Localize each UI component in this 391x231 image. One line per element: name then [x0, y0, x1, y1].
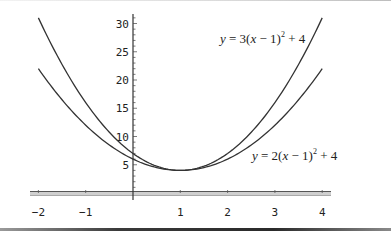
y-tick-label: 5 — [122, 159, 129, 172]
y-tick-label: 30 — [116, 18, 129, 31]
x-axis-tick-labels: −2−11234 — [32, 206, 326, 219]
x-tick-label: 2 — [224, 206, 231, 219]
equation-label-lower: y = 2(x − 1)2 + 4 — [250, 147, 338, 163]
x-tick-label: −1 — [79, 206, 92, 219]
x-tick-label: 1 — [177, 206, 184, 219]
y-tick-label: 25 — [116, 46, 129, 59]
x-tick-label: −2 — [32, 206, 45, 219]
y-tick-label: 15 — [116, 102, 129, 115]
x-tick-label: 3 — [272, 206, 279, 219]
y-axis: 51015202530 — [116, 14, 137, 200]
chart-frame: −2−11234 51015202530 y = 3(x − 1)2 + 4 y… — [0, 0, 391, 231]
equation-label-upper: y = 3(x − 1)2 + 4 — [218, 30, 306, 46]
y-tick-label: 20 — [116, 74, 129, 87]
bottom-border — [0, 228, 391, 231]
x-tick-label: 4 — [319, 206, 326, 219]
x-axis: −2−11234 — [30, 190, 331, 219]
parabola-plot: −2−11234 51015202530 y = 3(x − 1)2 + 4 y… — [0, 0, 391, 231]
y-axis-ticks — [133, 18, 137, 188]
